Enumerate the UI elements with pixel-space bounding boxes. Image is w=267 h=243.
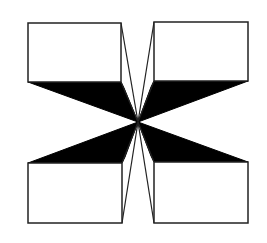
shapes-group xyxy=(28,22,248,223)
diagram-canvas xyxy=(0,0,267,243)
bottom-right-shadow xyxy=(138,122,248,162)
top-left-box xyxy=(28,23,121,82)
bottom-left-box xyxy=(28,163,122,223)
top-right-box xyxy=(154,22,248,81)
bottom-left-shadow xyxy=(28,122,138,163)
bottom-right-box xyxy=(154,162,248,223)
top-right-shadow xyxy=(138,81,248,122)
top-left-shadow xyxy=(28,82,138,122)
